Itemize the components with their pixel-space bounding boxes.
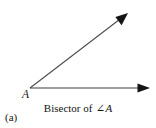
part-label: (a) xyxy=(5,112,17,123)
figure-caption: Bisector of ∠A xyxy=(0,103,156,114)
angle-symbol-icon: ∠ xyxy=(95,102,105,115)
caption-prefix: Bisector of xyxy=(44,102,95,114)
angle-bisector-figure: A Bisector of ∠A (a) xyxy=(0,0,156,128)
caption-angle-name: A xyxy=(105,102,112,114)
vertex-label-a: A xyxy=(22,89,29,101)
